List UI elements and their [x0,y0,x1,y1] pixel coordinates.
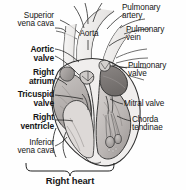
heart-body-group [52,59,140,166]
label-pulmonary-vein: Pulmonary vein [126,26,182,43]
figure-caption-right-heart: Right heart [18,176,122,186]
heart-anatomy-figure: Superior vena cava Aortic valve Right at… [0,0,186,190]
label-aorta: Aorta [72,30,106,38]
label-right-atrium: Right atrium [4,68,54,85]
label-tricuspid-valve: Tricuspid valve [2,90,54,107]
label-aortic-valve: Aortic valve [4,45,54,62]
label-superior-vena-cava: Superior vena cava [2,12,54,29]
label-mitral-valve: Mitral valve [124,100,184,108]
label-pulmonary-artery: Pulmonary artery [122,4,182,21]
label-pulmonary-valve: Pulmonary valve [128,62,184,79]
label-right-ventricle: Right ventricle [2,113,54,130]
label-chorda-tendinae: Chorda tendinae [132,116,184,133]
label-inferior-vena-cava: Inferior vena cava [2,139,54,156]
